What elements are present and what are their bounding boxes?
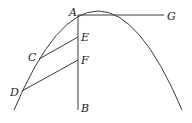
- label-D: D: [9, 86, 19, 99]
- parabola-curve: [14, 11, 182, 110]
- parabola-diagram: A G E F B C D: [0, 0, 192, 123]
- label-A: A: [68, 6, 77, 19]
- label-E: E: [80, 31, 89, 44]
- segment-CE: [39, 37, 78, 59]
- label-F: F: [80, 54, 89, 67]
- label-C: C: [28, 51, 37, 64]
- label-G: G: [167, 10, 176, 23]
- label-B: B: [80, 102, 89, 115]
